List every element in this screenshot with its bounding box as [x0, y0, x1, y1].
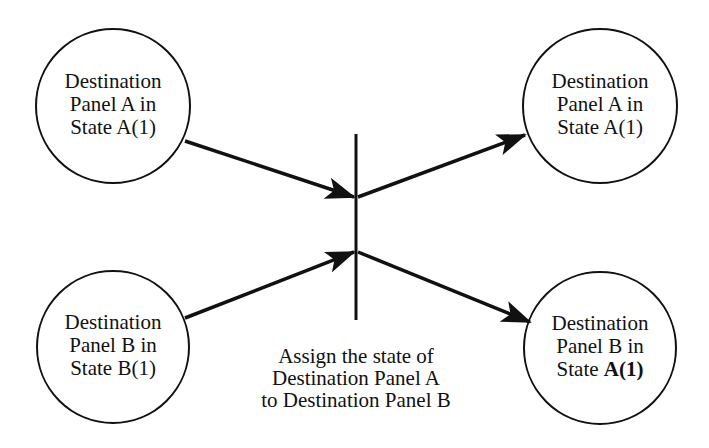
state-prefix: State: [557, 115, 603, 139]
caption-line: Assign the state of: [236, 345, 476, 367]
caption-line: Destination Panel A: [236, 367, 476, 389]
state-prefix: State: [70, 356, 117, 380]
node-state-line: State A(1): [525, 358, 675, 381]
node-label-line: Panel A in: [38, 93, 188, 116]
node-label-line: Destination: [525, 70, 675, 93]
state-prefix: State: [557, 357, 604, 381]
arrow-input-a: [185, 141, 354, 197]
state-prefix: State: [70, 115, 116, 139]
state-value: A(1): [116, 115, 156, 139]
node-label-line: Panel A in: [525, 93, 675, 116]
arrow-input-b: [185, 252, 354, 318]
node-state-line: State B(1): [38, 357, 188, 380]
arrow-output-b: [358, 252, 530, 322]
caption-line: to Destination Panel B: [236, 389, 476, 411]
node-top-right-label: Destination Panel A in State A(1): [525, 70, 675, 139]
state-value: A(1): [603, 115, 643, 139]
node-state-line: State A(1): [525, 116, 675, 139]
node-label-line: Destination: [38, 311, 188, 334]
node-bottom-left-label: Destination Panel B in State B(1): [38, 311, 188, 380]
arrow-output-a: [358, 135, 525, 197]
node-state-line: State A(1): [38, 116, 188, 139]
node-label-line: Destination: [525, 312, 675, 335]
state-value: B(1): [117, 356, 156, 380]
node-top-left-label: Destination Panel A in State A(1): [38, 70, 188, 139]
node-label-line: Panel B in: [525, 335, 675, 358]
node-label-line: Panel B in: [38, 334, 188, 357]
node-label-line: Destination: [38, 70, 188, 93]
state-value-bold: A(1): [604, 357, 644, 381]
node-bottom-right-label: Destination Panel B in State A(1): [525, 312, 675, 381]
transition-caption: Assign the state of Destination Panel A …: [236, 345, 476, 411]
